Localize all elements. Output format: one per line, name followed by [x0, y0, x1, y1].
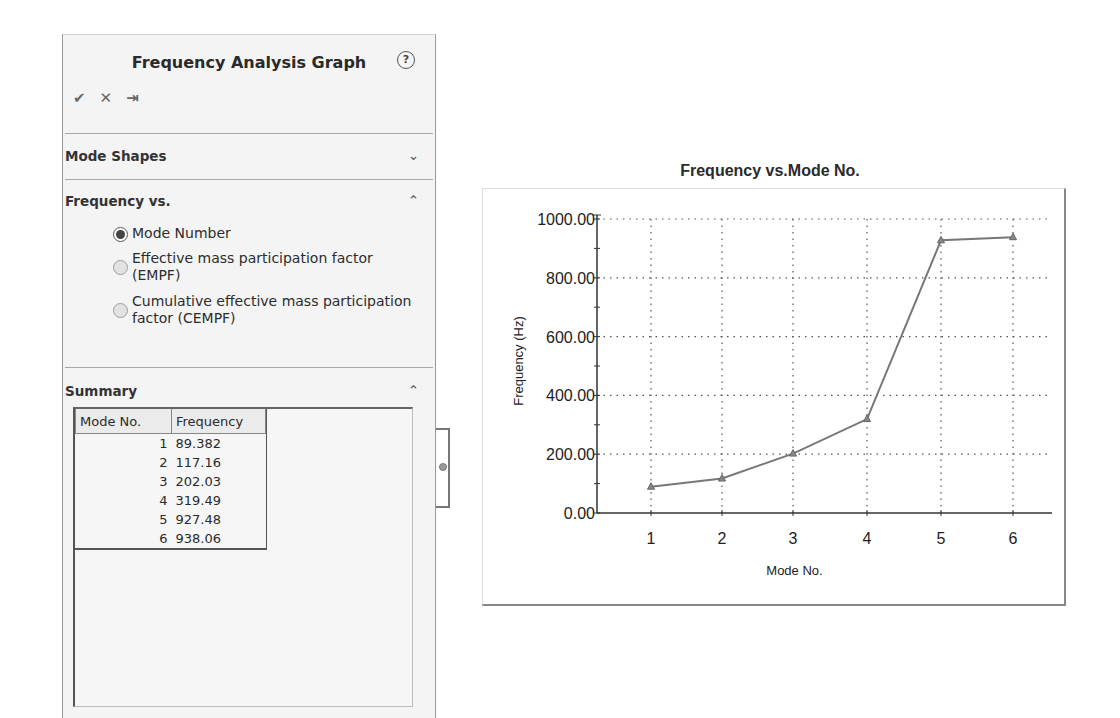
- axes: [593, 215, 1052, 516]
- x-axis-title: Mode No.: [766, 563, 822, 578]
- y-tick-label: 400.00: [546, 387, 595, 404]
- y-tick-label: 0.00: [564, 505, 595, 522]
- gridlines: [597, 219, 1052, 513]
- x-tick-label: 1: [647, 530, 656, 547]
- y-axis-title: Frequency (Hz): [511, 316, 526, 406]
- data-point-marker[interactable]: [864, 415, 871, 422]
- y-tick-label: 800.00: [546, 270, 595, 287]
- y-tick-label: 200.00: [546, 446, 595, 463]
- series-line: [651, 237, 1013, 487]
- data-series: [648, 233, 1017, 489]
- y-tick-label: 600.00: [546, 329, 595, 346]
- x-tick-label: 4: [863, 530, 872, 547]
- y-tick-label: 1000.00: [537, 211, 595, 228]
- frequency-line-chart: 0.00200.00400.00600.00800.001000.0012345…: [0, 0, 1120, 718]
- x-tick-label: 5: [937, 530, 946, 547]
- x-tick-label: 3: [789, 530, 798, 547]
- x-tick-label: 2: [718, 530, 727, 547]
- x-tick-label: 6: [1009, 530, 1018, 547]
